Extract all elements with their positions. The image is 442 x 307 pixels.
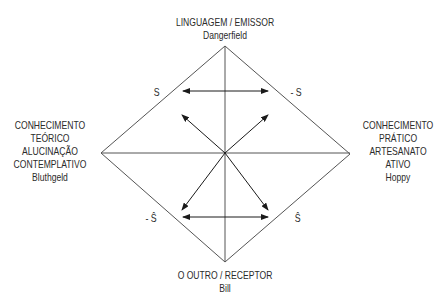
left-label-line-3: ALUCINAÇÃO (11, 145, 89, 158)
top-label: LINGUAGEM / EMISSOR Dangerfield (167, 16, 284, 42)
arrow-center-lower-left (182, 153, 225, 210)
bottom-label-line-1: O OUTRO / RECEPTOR (167, 269, 284, 282)
top-label-line-1: LINGUAGEM / EMISSOR (167, 16, 284, 29)
right-label: CONHECIMENTO PRÁTICO ARTESANATO ATIVO Ho… (359, 119, 437, 184)
arrow-center-upper-right (225, 115, 268, 153)
right-label-line-2: PRÁTICO (359, 132, 437, 145)
left-label-line-4: CONTEMPLATIVO (11, 158, 89, 171)
symbol-neg-s-hat-lower-left: - Ŝ (145, 212, 156, 224)
right-label-line-3: ARTESANATO (359, 145, 437, 158)
symbol-s-hat-lower-right: Ŝ (295, 212, 301, 224)
bottom-label-line-2: Bill (167, 282, 284, 295)
arrow-center-lower-right (225, 153, 268, 210)
symbol-neg-s-upper-right: - S (290, 86, 301, 98)
top-label-line-2: Dangerfield (167, 29, 284, 42)
right-label-line-1: CONHECIMENTO (359, 119, 437, 132)
left-label-line-2: TEÓRICO (11, 132, 89, 145)
bottom-label: O OUTRO / RECEPTOR Bill (167, 269, 284, 295)
left-label-line-1: CONHECIMENTO (11, 119, 89, 132)
left-label: CONHECIMENTO TEÓRICO ALUCINAÇÃO CONTEMPL… (11, 119, 89, 184)
right-label-line-4: ATIVO (359, 158, 437, 171)
right-label-line-5: Hoppy (359, 171, 437, 184)
symbol-s-upper-left: S (154, 86, 160, 98)
left-label-line-5: Bluthgeld (11, 171, 89, 184)
arrow-center-upper-left (182, 115, 225, 153)
